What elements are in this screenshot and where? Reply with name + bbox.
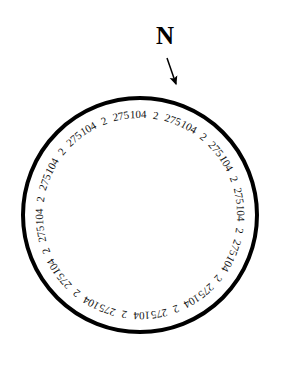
- dial-outline-circle: [23, 98, 257, 332]
- dial-drawing: [0, 0, 281, 369]
- north-arrow-icon: [167, 58, 176, 84]
- north-label: N: [150, 20, 180, 52]
- compass-dial-figure: N 27510422751042275104227510422751042275…: [0, 0, 281, 369]
